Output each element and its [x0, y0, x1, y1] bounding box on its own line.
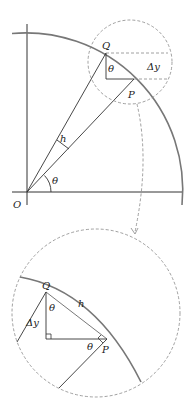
right-angle-marker	[46, 334, 51, 339]
radius-op	[27, 79, 134, 192]
magnifier-circle-large	[12, 229, 180, 397]
inset-label-delta-y: Δy	[25, 317, 39, 328]
zoom-connector	[135, 104, 143, 232]
inset-label-q: Q	[42, 280, 50, 291]
inset-label-theta-q: θ	[49, 302, 55, 313]
inset-radius-p	[59, 339, 107, 388]
label-p: P	[127, 89, 135, 100]
circle-arc	[12, 33, 183, 205]
inset-label-p: P	[101, 344, 109, 355]
label-theta-origin: θ	[52, 175, 58, 186]
label-delta-y: Δy	[146, 61, 160, 72]
top-diagram: O Q P h θ θ Δy	[12, 20, 183, 234]
inset-diagram: Q h θ Δy θ P	[12, 229, 180, 397]
inset-label-theta-p: θ	[87, 341, 93, 352]
radius-oq	[27, 53, 106, 192]
arrowhead-icon	[131, 228, 138, 234]
label-origin: O	[13, 199, 21, 210]
inset-label-h: h	[78, 298, 84, 309]
diagram-canvas: O Q P h θ θ Δy Q h θ Δy θ P	[0, 0, 189, 411]
label-theta-q: θ	[108, 63, 114, 74]
label-h: h	[60, 133, 66, 144]
angle-arc-origin	[45, 176, 52, 193]
inset-chord-h	[46, 292, 107, 339]
label-q: Q	[102, 40, 110, 51]
